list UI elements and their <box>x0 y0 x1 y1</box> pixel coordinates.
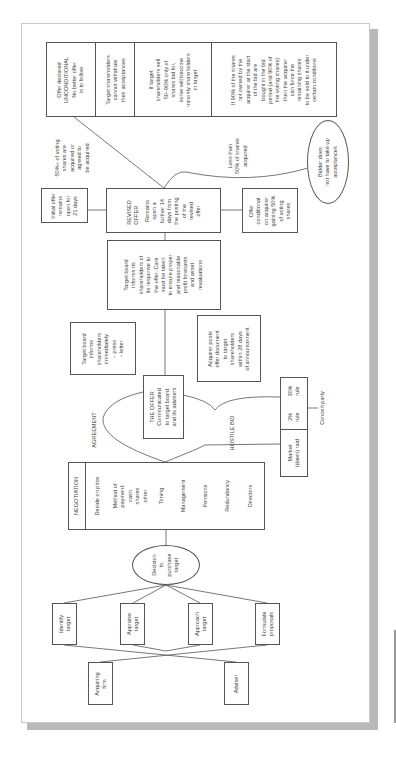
text-line: of the <box>180 197 187 224</box>
ellipse-text: Decision to purchase target <box>151 553 181 576</box>
label-minority: Less than 50% of shares acquired <box>222 128 254 183</box>
text-line: be acquired <box>83 139 90 176</box>
text-line: Identify <box>57 615 64 633</box>
outcome-no-withdraw: Target shareholders cannot withdraw thei… <box>95 43 135 116</box>
text-line: the voting shares) <box>274 54 281 105</box>
item-text: Pensions <box>202 484 209 507</box>
text-line: target <box>133 613 140 635</box>
box-text: Acquiring firm <box>93 672 108 695</box>
outcome-text: Offer declared UNCONDITIONAL No better o… <box>56 56 86 102</box>
text-line: Bidder does <box>317 138 324 186</box>
text-line: certain conditions <box>311 54 318 105</box>
text-line: Communicated <box>156 388 163 427</box>
text-line: Acquiring <box>93 672 100 695</box>
text-line: on acquirer <box>263 195 270 226</box>
text-line: target <box>65 615 72 633</box>
text-line: Target board <box>81 332 88 364</box>
text-line: agreed to <box>76 139 83 176</box>
text-line: shares <box>134 484 141 509</box>
box-text: Initial offer remains open for 21 days <box>50 193 80 219</box>
initial-offer-box: Initial offer remains open for 21 days <box>41 188 88 223</box>
decision-ellipse: Decision to purchase target <box>132 545 200 585</box>
text-line: shareholders <box>229 327 236 370</box>
target-board-immediate-box: Target board informs shareholders immedi… <box>70 322 136 375</box>
negotiation-item: Timing <box>151 463 173 529</box>
text-line: 50% of shares <box>234 138 241 174</box>
text-line: the offer. Care <box>153 254 160 295</box>
box-text: Target board informs shareholders immedi… <box>81 332 125 364</box>
text-line: payment: <box>119 484 126 509</box>
text-line: open for <box>65 193 72 219</box>
text-line: (dawn) raid <box>294 439 301 467</box>
item-text: Timing <box>158 488 165 505</box>
text-line: 50%+ of voting <box>54 139 61 176</box>
text-line: Decision <box>151 553 158 576</box>
text-line: its response to <box>146 254 153 295</box>
box-text: Identify target <box>57 615 72 633</box>
text-line: offer document <box>214 327 221 370</box>
rule-3: 3% rule <box>281 404 307 430</box>
negotiation-item: Pensions <box>195 463 217 529</box>
text-line: informs its <box>131 254 138 295</box>
text-line: their acceptances <box>119 55 126 104</box>
rules-box: 30% rule 3% rule Market (dawn) raid <box>280 377 308 477</box>
text-line: Acquirer posts <box>207 327 214 370</box>
text-line: open a <box>150 197 157 224</box>
text-line: the posting <box>172 197 179 224</box>
text-line: Offer declared <box>56 56 63 102</box>
box-text: Adviser <box>233 674 240 693</box>
offer-conditional-box: Offer conditional on acquirer gaining 50… <box>242 188 298 233</box>
label-agreement: AGREEMENT <box>88 405 102 455</box>
text-line: cash <box>126 484 133 509</box>
negotiation-item: Management <box>173 463 195 529</box>
text-line: purchase <box>166 553 173 576</box>
revised-offer-box: REVISED OFFER Remains open a further 14 … <box>106 188 221 233</box>
label-concert-party: Concert party <box>316 385 330 430</box>
text-line: shareholders <box>96 332 103 364</box>
text-line: target <box>201 612 208 636</box>
text-line: can force the <box>289 54 296 105</box>
text-line: and its advisers <box>171 388 178 427</box>
text-line: must be taken <box>160 254 167 295</box>
outcome-text: Target shareholders cannot withdraw thei… <box>104 55 126 104</box>
box-text: Target board informs its shareholders of… <box>123 254 204 295</box>
text-line: Directors <box>247 485 254 507</box>
actor-adviser: Adviser <box>224 662 249 705</box>
the-offer-box: THE OFFER Communicated to target board a… <box>143 375 184 439</box>
text-line: of voting <box>277 195 284 226</box>
rule-text: 3% rule <box>287 412 302 421</box>
text-line: within 28 days <box>236 327 243 370</box>
text-line: 50–90% only of <box>162 53 169 106</box>
text-line: Redundancy <box>224 480 231 511</box>
page-shadow-bottom <box>27 723 378 730</box>
text-line: proposals <box>268 611 275 636</box>
negotiation-item: Decide on price <box>87 463 109 529</box>
text-line: of announcement <box>244 327 251 370</box>
text-line: informs <box>88 332 95 364</box>
text-line: immediately <box>103 332 110 364</box>
text-line: shares bid for, <box>170 53 177 106</box>
text-line: – press <box>110 332 117 364</box>
text-line: If target <box>148 53 155 106</box>
item-text: Redundancy <box>224 480 231 511</box>
acquirer-posts-box: Acquirer posts offer document to target … <box>197 315 261 382</box>
text-line: Appraise <box>125 613 132 635</box>
negotiation-item: Directors <box>239 463 263 529</box>
bidder-ellipse: Bidder does not have to take up acceptan… <box>307 120 349 204</box>
text-line: 30% <box>287 385 294 396</box>
label-text: AGREEMENT <box>91 412 98 447</box>
negotiation-header: NEGOTIATION <box>69 463 86 529</box>
text-line: shares are <box>61 139 68 176</box>
text-line: Management <box>180 480 187 513</box>
item-text: Directors <box>247 485 254 507</box>
step-appraise-target: Appraise target <box>120 603 145 645</box>
outcome-text: If 90% of the shares not owned by the ac… <box>230 54 319 105</box>
negotiation-box: NEGOTIATION Decide on price Method of pa… <box>68 462 265 530</box>
market-raid: Market (dawn) raid <box>281 430 307 476</box>
text-line: Adviser <box>233 674 240 693</box>
text-line: Timing <box>158 488 165 505</box>
text-line: cannot withdraw <box>112 55 119 104</box>
text-line: further 14 <box>158 197 165 224</box>
text-line: to <box>159 553 166 576</box>
text-line: gaining 50% <box>270 195 277 226</box>
